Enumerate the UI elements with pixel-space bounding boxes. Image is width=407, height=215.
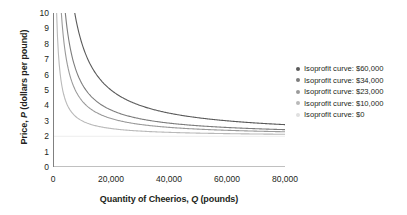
x-tick-label: 20,000 [81,175,141,184]
y-tick-label: 2 [33,132,49,141]
isoprofit-curve-34000 [65,13,285,130]
y-tick-label: 6 [33,71,49,80]
x-axis-title-post: (pounds) [198,194,238,204]
y-tick-label: 1 [33,148,49,157]
y-axis-title-post: (dollars per pound) [19,30,29,113]
x-tick-label: 60,000 [197,175,257,184]
y-axis-symbol: P [19,112,29,118]
x-axis-title: Quantity of Cheerios, Q (pounds) [53,194,285,204]
legend-marker-dot-icon [296,101,300,105]
legend-marker-dot-icon [296,78,300,82]
legend: Isoprofit curve: $60,000Isoprofit curve:… [296,63,404,121]
legend-item-label: Isoprofit curve: $10,000 [304,99,383,108]
legend-item-label: Isoprofit curve: $0 [304,110,364,119]
legend-marker-dot-icon [296,67,300,71]
y-tick-label: 0 [33,163,49,172]
x-tick-label: 0 [23,175,83,184]
isoprofit-curves-chart: Price, P (dollars per pound) 01234567891… [0,0,407,215]
legend-item[interactable]: Isoprofit curve: $23,000 [296,86,404,97]
plot-area [53,13,285,167]
legend-item[interactable]: Isoprofit curve: $34,000 [296,75,404,86]
legend-item-label: Isoprofit curve: $23,000 [304,87,383,96]
y-tick-label: 10 [33,9,49,18]
isoprofit-curves-svg [53,13,285,167]
y-tick-label: 3 [33,117,49,126]
legend-item[interactable]: Isoprofit curve: $60,000 [296,63,404,74]
x-axis-title-pre: Quantity of Cheerios, [100,194,191,204]
y-tick-label: 8 [33,40,49,49]
legend-marker-dot-icon [296,113,300,117]
y-tick-label: 7 [33,55,49,64]
legend-item-label: Isoprofit curve: $34,000 [304,76,383,85]
y-axis-title: Price, P (dollars per pound) [19,7,29,167]
x-tick-label: 40,000 [139,175,199,184]
y-tick-label: 4 [33,101,49,110]
legend-marker-dot-icon [296,90,300,94]
y-axis-title-pre: Price, [19,118,29,144]
y-tick-label: 5 [33,86,49,95]
y-tick-label: 9 [33,24,49,33]
axis-lines [54,13,286,167]
legend-item[interactable]: Isoprofit curve: $10,000 [296,98,404,109]
isoprofit-curve-10000 [57,13,285,134]
legend-item[interactable]: Isoprofit curve: $0 [296,109,404,120]
x-tick-label: 80,000 [255,175,315,184]
legend-item-label: Isoprofit curve: $60,000 [304,64,383,73]
